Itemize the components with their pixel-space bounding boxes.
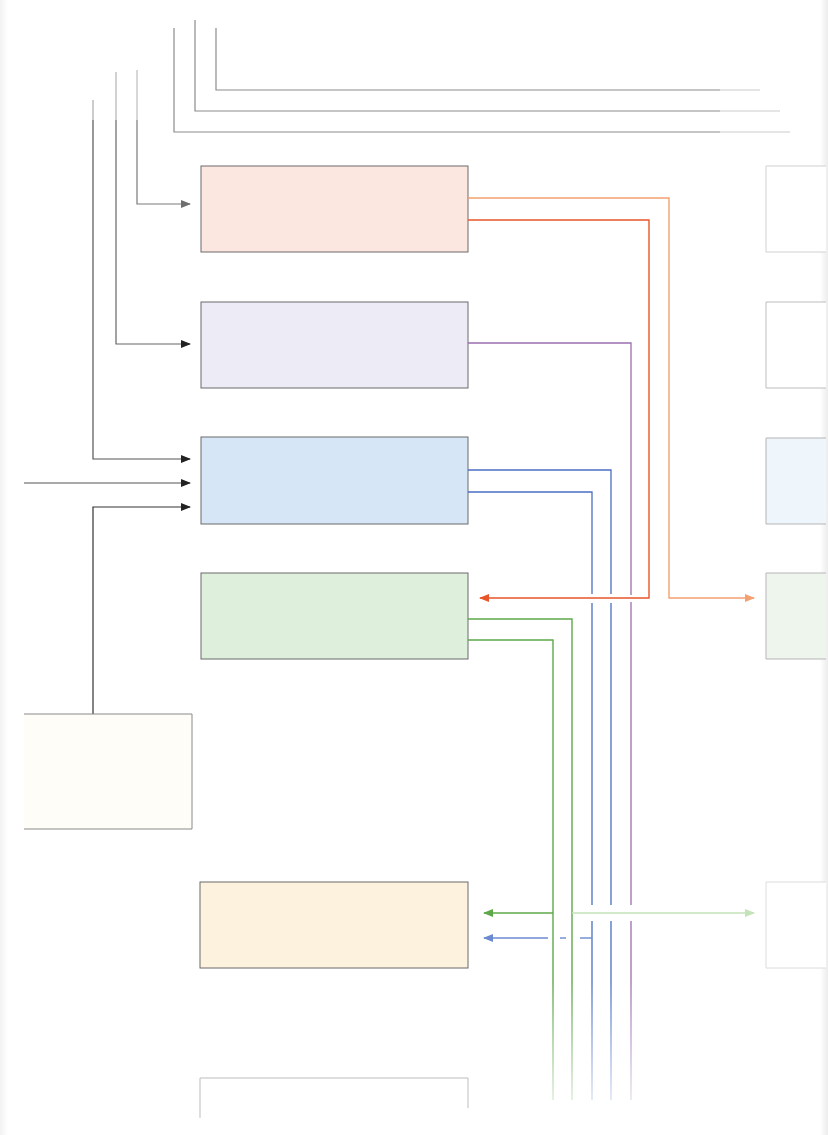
- box-source[interactable]: [24, 714, 192, 829]
- bus-line-2: [195, 20, 780, 111]
- top-bus-lines: [174, 20, 810, 140]
- box-blue[interactable]: [201, 437, 468, 524]
- box-right-2[interactable]: [766, 302, 826, 388]
- input-arrow-blue-box-3: [93, 507, 190, 714]
- box-yellow[interactable]: [200, 882, 468, 968]
- box-purple[interactable]: [201, 302, 468, 388]
- box-right-5[interactable]: [766, 882, 826, 968]
- left-input-lines: [24, 70, 190, 714]
- box-green[interactable]: [201, 573, 468, 659]
- box-red[interactable]: [201, 166, 468, 252]
- bus-line-3: [174, 28, 790, 132]
- flow-diagram: [0, 0, 828, 1135]
- box-right-1[interactable]: [766, 166, 826, 252]
- box-right-4[interactable]: [766, 573, 826, 659]
- box-right-3[interactable]: [766, 438, 826, 524]
- input-arrow-blue-box-1: [93, 100, 190, 459]
- boxes: [24, 166, 826, 1118]
- box-bottom[interactable]: [200, 1078, 468, 1118]
- bus-line-1: [216, 28, 760, 90]
- red-line-to-green-box: [468, 220, 649, 598]
- fade-overlay: [720, 85, 810, 137]
- yellow-box-inputs: [484, 913, 754, 938]
